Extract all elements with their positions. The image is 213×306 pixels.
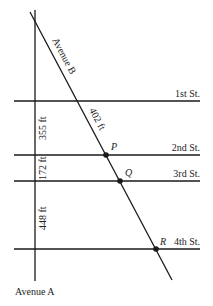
- street-3rd-label: 3rd St.: [173, 168, 200, 179]
- point-r-label: R: [159, 236, 166, 247]
- point-p-dot: [103, 152, 109, 158]
- street-4th-label: 4th St.: [174, 236, 200, 247]
- measure-355ft: 355 ft: [37, 116, 48, 140]
- measure-172ft: 172 ft: [37, 156, 48, 180]
- street-diagram: P Q R 1st St. 2nd St. 3rd St. 4th St. Av…: [0, 0, 213, 306]
- point-q-dot: [117, 178, 123, 184]
- point-p-label: P: [110, 141, 117, 152]
- street-2nd-label: 2nd St.: [172, 142, 200, 153]
- street-1st-label: 1st St.: [175, 88, 200, 99]
- avenue-a-label: Avenue A: [15, 286, 55, 297]
- avenue-b-label: Avenue B: [50, 36, 78, 76]
- avenue-b-line: [30, 12, 172, 280]
- point-q-label: Q: [125, 167, 133, 178]
- measure-448ft: 448 ft: [37, 206, 48, 230]
- measure-402ft: 402 ft: [87, 106, 108, 132]
- point-r-dot: [153, 246, 159, 252]
